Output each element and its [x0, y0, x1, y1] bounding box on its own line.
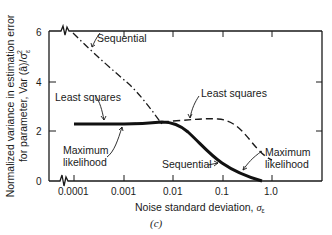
annotation-least-squares-left: Least squares [55, 91, 121, 103]
x-tick-0.1: 0.1 [215, 186, 229, 197]
annotation-sequential-top: Sequential [97, 32, 147, 44]
svg-text:for parameter, Var (â)/σε2: for parameter, Var (â)/σε2 [16, 50, 31, 162]
annotation-maximum-likelihood-right-1: Maximum [265, 146, 311, 158]
annotation-least-squares-right: Least squares [201, 87, 267, 99]
x-tick-0.01: 0.01 [163, 186, 183, 197]
annotation-maximum-likelihood-right-2: likelihood [265, 158, 309, 170]
annotation-maximum-likelihood-left-2: likelihood [63, 156, 107, 168]
x-axis-label: Noise standard deviation, σε [135, 201, 265, 214]
svg-text:Normalized variance in estimat: Normalized variance in estimation error [4, 14, 16, 197]
y-tick-0: 0 [36, 176, 42, 187]
y-axis-label: Normalized variance in estimation error … [4, 14, 31, 197]
annotation-sequential-bottom: Sequential [162, 158, 212, 170]
y-tick-2: 2 [36, 126, 42, 137]
y-tick-4: 4 [36, 77, 42, 88]
series-sequential-dashdot [73, 33, 162, 124]
x-tick-0.0001: 0.0001 [58, 186, 89, 197]
figure-caption: (c) [150, 217, 163, 230]
x-tick-0.001: 0.001 [111, 186, 136, 197]
y-tick-6: 6 [36, 27, 42, 38]
chart: 0.0001 0.001 0.01 0.1 1.0 0 2 4 6 Normal… [0, 0, 332, 235]
x-tick-1.0: 1.0 [264, 186, 278, 197]
annotation-maximum-likelihood-left-1: Maximum [63, 144, 109, 156]
